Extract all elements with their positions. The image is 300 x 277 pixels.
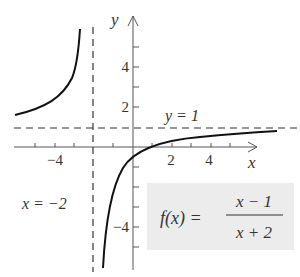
y-tick-label: 2 <box>122 99 130 115</box>
y-tick-label: 4 <box>122 59 130 75</box>
formula-numerator: x − 1 <box>235 192 272 211</box>
x-axis-label: x <box>247 153 256 172</box>
y-tick-label: −4 <box>113 219 129 235</box>
x-tick-label: 4 <box>205 152 213 168</box>
vertical-asymptote-label: x = −2 <box>21 195 67 212</box>
x-tick-label: −4 <box>47 152 63 168</box>
x-tick-label: 2 <box>167 152 175 168</box>
formula-lhs: f(x) = <box>160 208 202 229</box>
formula-denominator: x + 2 <box>235 223 273 242</box>
function-graph: y x −4 2 4 4 2 −4 y = 1 x = −2 f(x) = x … <box>0 0 300 277</box>
horizontal-asymptote-label: y = 1 <box>163 107 199 125</box>
curve-left-branch <box>15 29 80 115</box>
y-axis-label: y <box>109 10 119 29</box>
